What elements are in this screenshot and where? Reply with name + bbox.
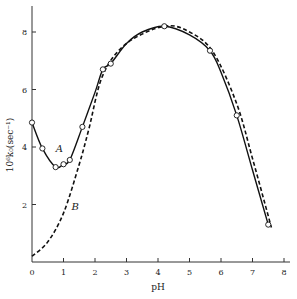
chart: 012345678 2468 pH 10⁶k₀(sec⁻¹) AB	[0, 0, 297, 299]
x-tick-label: 3	[124, 268, 129, 277]
x-axis-label: pH	[151, 282, 165, 292]
data-point	[61, 162, 66, 167]
data-point	[29, 120, 34, 125]
y-tick-label: 4	[22, 143, 27, 152]
data-point	[108, 61, 113, 66]
data-point	[67, 157, 72, 162]
data-point	[40, 146, 45, 151]
x-tick-label: 8	[281, 268, 286, 277]
data-point	[234, 113, 239, 118]
data-point	[207, 48, 212, 53]
y-ticks: 2468	[22, 28, 36, 210]
x-tick-label: 2	[92, 268, 97, 277]
series-A	[29, 24, 270, 228]
curve-B	[32, 26, 271, 257]
x-tick-label: 1	[61, 268, 66, 277]
x-tick-label: 7	[250, 268, 255, 277]
axes: 012345678 2468	[22, 6, 290, 277]
data-point	[80, 124, 85, 129]
series-B	[32, 26, 271, 257]
x-tick-label: 6	[218, 268, 223, 277]
data-point	[162, 24, 167, 29]
y-axis-label: 10⁶k₀(sec⁻¹)	[5, 118, 15, 173]
x-tick-label: 4	[155, 268, 160, 277]
data-point	[53, 165, 58, 170]
x-ticks: 012345678	[29, 258, 286, 277]
series-layer	[29, 24, 271, 257]
y-tick-label: 2	[22, 201, 27, 210]
y-tick-label: 8	[22, 28, 27, 37]
x-tick-label: 0	[29, 268, 34, 277]
data-point	[266, 222, 271, 227]
curve-A	[32, 26, 268, 224]
y-tick-label: 6	[22, 86, 27, 95]
x-tick-label: 5	[187, 268, 192, 277]
data-point	[100, 67, 105, 72]
curve-label-A: A	[55, 143, 63, 154]
curve-label-B: B	[70, 201, 78, 212]
